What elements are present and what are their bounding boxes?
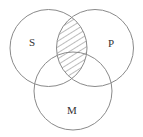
set-label-p: P [108, 37, 114, 49]
venn-diagram: S P M [0, 0, 143, 137]
set-label-m: M [67, 104, 77, 116]
set-label-s: S [29, 36, 35, 48]
